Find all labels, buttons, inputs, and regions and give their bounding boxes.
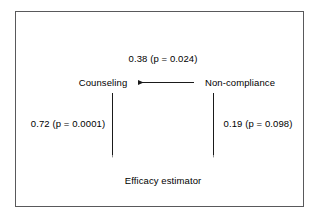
node-counseling: Counseling — [79, 77, 128, 88]
node-efficacy-estimator: Efficacy estimator — [125, 175, 202, 186]
node-noncompliance: Non-compliance — [205, 77, 275, 88]
edge-label-noncompliance-to-counseling: 0.38 (p = 0.024) — [129, 53, 198, 64]
path-diagram-figure: 0.38 (p = 0.024) 0.72 (p = 0.0001) 0.19 … — [0, 0, 319, 222]
edge-label-noncompliance-to-efficacy: 0.19 (p = 0.098) — [224, 118, 293, 129]
edge-label-counseling-to-efficacy: 0.72 (p = 0.0001) — [31, 118, 105, 129]
